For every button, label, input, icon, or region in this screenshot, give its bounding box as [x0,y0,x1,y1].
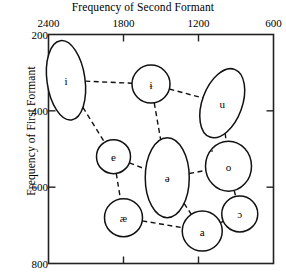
vowel-marker-u[interactable]: u [191,63,253,144]
vowel-link-æ-a [142,221,182,228]
vowel-link-i-ɨ [85,81,132,83]
vowel-link-e-æ [116,173,120,199]
vowel-link-u-o [225,133,226,141]
vowel-label-ɔ: ɔ [237,208,242,220]
vowel-link-ə-o [189,170,206,173]
vowel-link-ə-a [184,203,191,214]
vowel-label-u: u [220,98,226,110]
vowel-label-ɨ: ɨ [149,79,152,91]
stray-speck [211,150,213,152]
vowel-ellipse-group: iɨueəoæaɔ [42,38,258,251]
vowel-marker-ɨ[interactable]: ɨ [132,65,170,103]
vowel-marker-æ[interactable]: æ [105,199,143,237]
vowel-label-ə: ə [165,172,170,184]
vowel-marker-ɔ[interactable]: ɔ [222,196,258,232]
vowel-label-i: i [64,75,67,87]
vowel-marker-ə[interactable]: ə [145,138,189,218]
vowel-label-æ: æ [120,212,127,224]
vowel-link-i-e [83,107,105,142]
vowel-marker-a[interactable]: a [182,211,222,251]
vowel-link-o-ɔ [234,190,235,196]
vowel-link-e-ə [129,163,145,169]
vowel-marker-e[interactable]: e [97,140,131,174]
vowel-formant-chart: Frequency of Second Formant Frequency of… [0,0,286,278]
vowel-link-ɨ-ə [154,103,160,140]
vowel-label-e: e [111,151,116,163]
vowel-marker-o[interactable]: o [206,141,252,191]
vowel-link-ɨ-u [169,89,203,98]
vowel-label-o: o [226,161,232,173]
plot-area: iɨueəoæaɔ [0,0,286,278]
vowel-label-a: a [200,226,205,238]
